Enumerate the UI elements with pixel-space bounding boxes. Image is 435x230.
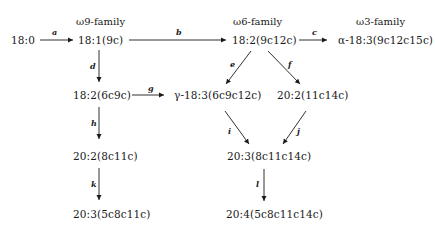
family-omega3: ω3-family [356, 16, 405, 28]
node-gamma-18-3: γ-18:3(6c9c12c) [174, 89, 261, 101]
edge-label-c: c [312, 28, 317, 37]
node-18-1-9c: 18:1(9c) [78, 34, 123, 46]
node-20-2-8c11c: 20:2(8c11c) [73, 150, 138, 162]
edge-label-h: h [91, 119, 97, 128]
edge-label-j: j [297, 127, 300, 136]
edge-label-i: i [228, 127, 231, 136]
node-18-2-6c9c: 18:2(6c9c) [73, 89, 131, 101]
edge-label-l: l [256, 180, 259, 189]
node-20-3-8c11c14c: 20:3(8c11c14c) [227, 150, 311, 162]
node-alpha-18-3: α-18:3(9c12c15c) [338, 34, 433, 46]
edge-label-e: e [230, 60, 235, 69]
family-omega9: ω9-family [76, 16, 125, 28]
edge-label-k: k [91, 180, 97, 189]
arrow-j [283, 111, 306, 144]
edge-label-a: a [52, 28, 57, 37]
edge-label-f: f [288, 60, 291, 69]
arrow-f [268, 51, 300, 84]
family-omega6: ω6-family [233, 16, 282, 28]
edge-label-g: g [148, 84, 154, 93]
edge-label-d: d [90, 62, 96, 71]
node-18-2-9c12c: 18:2(9c12c) [232, 34, 297, 46]
edge-label-b: b [176, 28, 182, 37]
node-18-0: 18:0 [11, 34, 35, 46]
node-20-4: 20:4(5c8c11c14c) [226, 208, 323, 220]
node-20-2-11c14c: 20:2(11c14c) [277, 89, 348, 101]
node-20-3-5c8c11c: 20:3(5c8c11c) [73, 208, 150, 220]
